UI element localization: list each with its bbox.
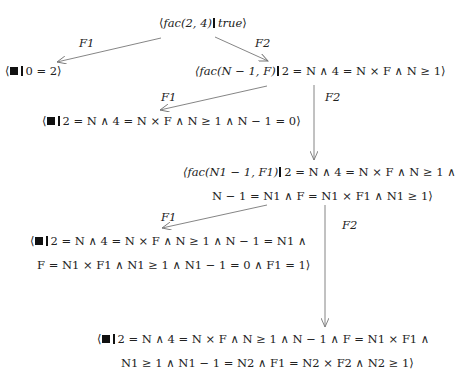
edge-label-f2: F2	[342, 218, 357, 232]
separator-bar	[21, 66, 23, 76]
node-cont-1: ⟨fac(N − 1, F)2 = N ∧ 4 = N × F ∧ N ≥ 1⟩	[195, 64, 446, 78]
failure-box-icon	[102, 335, 110, 343]
node-root: ⟨fac(2, 4)true⟩	[159, 16, 247, 30]
goal: ⟨fac(N1 − 1, F1)	[183, 165, 278, 179]
node-cont-2: ⟨fac(N1 − 1, F1)2 = N ∧ 4 = N × F ∧ N ≥ …	[183, 165, 456, 179]
separator-bar	[279, 167, 281, 177]
constraint-line-1: 2 = N ∧ 4 = N × F ∧ N ≥ 1 ∧ N − 1 = N1 ∧	[51, 234, 307, 248]
constraint: 0 = 2⟩	[26, 64, 62, 78]
constraint-line-1: 2 = N ∧ 4 = N × F ∧ N ≥ 1 ∧ N − 1 ∧ F = …	[118, 332, 430, 346]
node-fail-3-line-2: F = N1 × F1 ∧ N1 ≥ 1 ∧ N1 − 1 = 0 ∧ F1 =…	[37, 258, 310, 272]
node-fail-1: ⟨0 = 2⟩	[5, 64, 62, 78]
constraint-line-1: 2 = N ∧ 4 = N × F ∧ N ≥ 1 ∧	[284, 165, 455, 179]
constraint: 2 = N ∧ 4 = N × F ∧ N ≥ 1 ∧ N − 1 = 0⟩	[63, 114, 301, 128]
edge-label-f2: F2	[325, 90, 340, 104]
edge-n2-to-fail	[162, 205, 267, 228]
node-cont-3-line-2: N1 ≥ 1 ∧ N1 − 1 = N2 ∧ F1 = N2 × F2 ∧ N2…	[121, 356, 414, 370]
failure-box-icon	[10, 67, 18, 75]
edge-label-f2: F2	[255, 36, 270, 50]
edge-label-f1: F1	[161, 90, 176, 104]
separator-bar	[213, 18, 215, 28]
root-constraint: true	[218, 16, 242, 30]
node-fail-2: ⟨2 = N ∧ 4 = N × F ∧ N ≥ 1 ∧ N − 1 = 0⟩	[42, 114, 301, 128]
separator-bar	[113, 334, 115, 344]
node-fail-3: ⟨2 = N ∧ 4 = N × F ∧ N ≥ 1 ∧ N − 1 = N1 …	[30, 234, 306, 248]
edge-root-to-fail	[57, 38, 161, 62]
failure-box-icon	[47, 117, 55, 125]
root-goal: fac(2, 4)	[164, 16, 212, 30]
separator-bar	[58, 116, 60, 126]
node-cont-3: ⟨2 = N ∧ 4 = N × F ∧ N ≥ 1 ∧ N − 1 ∧ F =…	[97, 332, 429, 346]
goal: ⟨fac(N − 1, F)	[195, 64, 276, 78]
separator-bar	[46, 236, 48, 246]
node-cont-2-line-2: N − 1 = N1 ∧ F = N1 × F1 ∧ N1 ≥ 1⟩	[212, 189, 433, 203]
edge-label-f1: F1	[79, 36, 94, 50]
failure-box-icon	[35, 237, 43, 245]
edge-label-f1: F1	[161, 210, 176, 224]
separator-bar	[277, 66, 279, 76]
constraint: 2 = N ∧ 4 = N × F ∧ N ≥ 1⟩	[282, 64, 446, 78]
